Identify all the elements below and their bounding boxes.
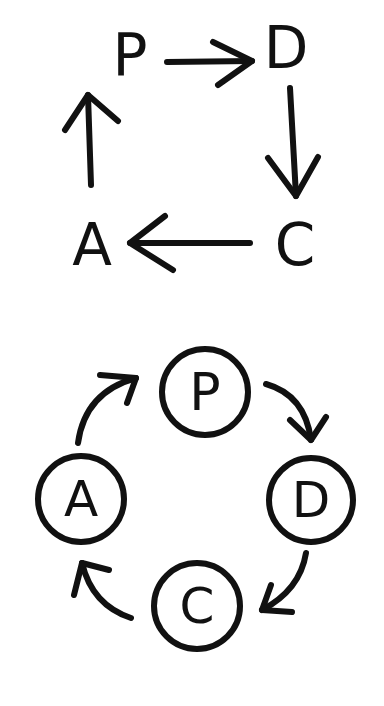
curved-arrow-a-to-p xyxy=(78,375,136,443)
node-c-label: C xyxy=(275,211,316,279)
curved-arrow-p-to-d xyxy=(266,384,326,440)
pdca-diagrams: P D C A P D C xyxy=(0,0,384,706)
node-a-label: A xyxy=(64,470,98,528)
node-a: A xyxy=(38,456,124,542)
curved-arrow-d-to-c xyxy=(262,553,306,612)
curved-arrow-c-to-a xyxy=(74,563,131,618)
node-d-label: D xyxy=(292,471,331,529)
node-p-label: P xyxy=(113,21,148,89)
node-c: C xyxy=(154,563,240,649)
square-cycle: P D C A xyxy=(65,14,318,279)
arrow-d-to-c xyxy=(268,88,318,196)
node-d: D xyxy=(269,458,353,542)
node-p: P xyxy=(162,349,248,435)
node-c-label: C xyxy=(180,577,215,635)
node-p-label: P xyxy=(189,362,220,422)
arrow-a-to-p xyxy=(65,95,118,185)
node-a-label: A xyxy=(72,211,112,279)
arrow-c-to-a xyxy=(130,216,250,270)
circle-cycle: P D C A xyxy=(38,349,353,649)
node-d-label: D xyxy=(264,14,309,82)
arrow-p-to-d xyxy=(167,42,252,85)
